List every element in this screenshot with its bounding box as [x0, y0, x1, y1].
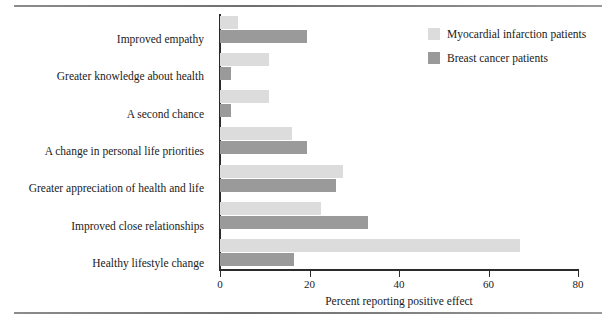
- x-tick-mark: [220, 270, 221, 277]
- category-label: A change in personal life priorities: [0, 136, 212, 166]
- bar: [220, 104, 231, 117]
- x-tick-mark: [399, 270, 400, 277]
- bar-group: [220, 238, 578, 268]
- x-axis-ticks: 020406080: [220, 270, 578, 294]
- x-tick-label: 80: [573, 278, 584, 290]
- x-tick-mark: [489, 270, 490, 277]
- x-tick-label: 60: [483, 278, 494, 290]
- bar: [220, 165, 343, 178]
- x-tick-mark: [310, 270, 311, 277]
- category-axis-labels: Improved empathyGreater knowledge about …: [0, 24, 212, 278]
- category-label: A second chance: [0, 99, 212, 129]
- bar-group: [220, 126, 578, 156]
- legend-swatch-icon: [428, 52, 440, 64]
- bar-chart: Improved empathyGreater knowledge about …: [0, 10, 612, 306]
- bar: [220, 141, 307, 154]
- bar: [220, 179, 336, 192]
- legend-label: Myocardial infarction patients: [447, 28, 586, 40]
- legend: Myocardial infarction patientsBreast can…: [428, 28, 586, 64]
- bottom-divider-rule: [14, 312, 602, 314]
- category-label: Greater appreciation of health and life: [0, 173, 212, 203]
- bar: [220, 127, 292, 140]
- bar: [220, 253, 294, 266]
- bar: [220, 16, 238, 29]
- x-tick-mark: [578, 270, 579, 277]
- bar: [220, 30, 307, 43]
- bar-group: [220, 89, 578, 119]
- x-tick-label: 40: [394, 278, 405, 290]
- category-label: Improved empathy: [0, 24, 212, 54]
- x-axis-title: Percent reporting positive effect: [220, 295, 578, 307]
- bar: [220, 90, 269, 103]
- category-label: Healthy lifestyle change: [0, 248, 212, 278]
- legend-swatch-icon: [428, 28, 440, 40]
- x-tick-label: 0: [217, 278, 223, 290]
- figure-container: Improved empathyGreater knowledge about …: [0, 0, 612, 325]
- bar: [220, 239, 520, 252]
- bar: [220, 53, 269, 66]
- top-divider-rule: [14, 5, 602, 7]
- x-tick-label: 20: [304, 278, 315, 290]
- bar-group: [220, 201, 578, 231]
- category-label: Improved close relationships: [0, 211, 212, 241]
- category-label: Greater knowledge about health: [0, 61, 212, 91]
- bar-group: [220, 163, 578, 193]
- legend-item: Myocardial infarction patients: [428, 28, 586, 40]
- legend-item: Breast cancer patients: [428, 52, 586, 64]
- bar: [220, 202, 321, 215]
- legend-label: Breast cancer patients: [447, 52, 548, 64]
- bar: [220, 216, 368, 229]
- bar: [220, 67, 231, 80]
